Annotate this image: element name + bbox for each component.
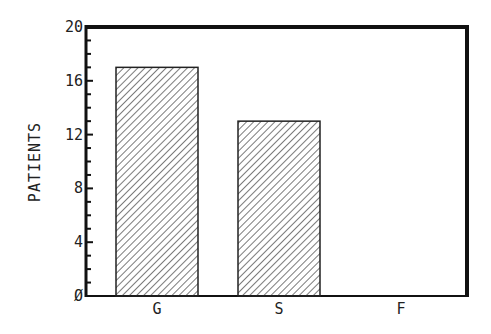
x-category-label: G xyxy=(152,300,161,318)
x-axis-labels: GSF xyxy=(152,300,405,318)
bar-s xyxy=(238,121,320,296)
x-category-label: F xyxy=(396,300,405,318)
bars xyxy=(116,67,320,296)
y-tick-label: 8 xyxy=(74,179,83,197)
bar-g xyxy=(116,67,198,296)
y-axis-label: PATIENTS xyxy=(26,122,44,202)
y-tick-label: 16 xyxy=(65,72,83,90)
y-tick-label: 20 xyxy=(65,18,83,36)
y-tick-label: Ø xyxy=(74,287,83,305)
y-tick-label: 4 xyxy=(74,233,83,251)
y-tick-label: 12 xyxy=(65,126,83,144)
bar-chart: Ø48121620 GSF PATIENTS xyxy=(0,0,491,334)
x-category-label: S xyxy=(274,300,283,318)
y-axis: Ø48121620 xyxy=(65,18,93,305)
